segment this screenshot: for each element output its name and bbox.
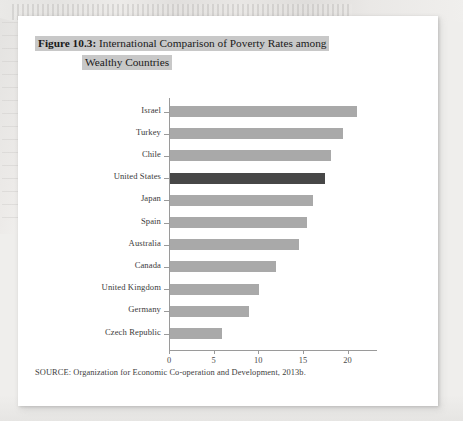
figure-number-label: Figure 10.3: bbox=[38, 37, 96, 49]
bar bbox=[170, 306, 249, 317]
y-axis-tick bbox=[164, 200, 169, 201]
x-axis-line bbox=[169, 350, 377, 351]
bar bbox=[170, 195, 313, 206]
bar-category-label: Chile bbox=[142, 149, 161, 159]
x-axis-tick bbox=[303, 350, 304, 354]
bar-category-label: Turkey bbox=[136, 127, 161, 137]
figure-source: SOURCE: Organization for Economic Co-ope… bbox=[35, 368, 306, 377]
y-axis-tick bbox=[164, 311, 169, 312]
bar bbox=[170, 239, 299, 250]
chart-plot-area: IsraelTurkeyChileUnited StatesJapanSpain… bbox=[169, 98, 379, 348]
y-axis-tick bbox=[164, 267, 169, 268]
bar-category-label: United States bbox=[114, 171, 161, 181]
bar-category-label: Spain bbox=[141, 216, 161, 226]
x-axis-tick bbox=[348, 350, 349, 354]
y-axis-tick bbox=[164, 156, 169, 157]
bar-category-label: United Kingdom bbox=[102, 282, 161, 292]
bar bbox=[170, 328, 222, 339]
y-axis-tick bbox=[164, 178, 169, 179]
y-axis-tick bbox=[164, 245, 169, 246]
bar bbox=[170, 128, 343, 139]
y-axis-tick bbox=[164, 334, 169, 335]
bar-category-label: Canada bbox=[135, 260, 161, 270]
bar bbox=[170, 150, 331, 161]
bar-category-label: Israel bbox=[141, 105, 161, 115]
y-axis-tick bbox=[164, 112, 169, 113]
x-axis-tick-label: 0 bbox=[167, 356, 171, 365]
x-axis-tick-label: 10 bbox=[254, 356, 262, 365]
bar-category-label: Australia bbox=[129, 238, 161, 248]
figure-title-text-2: Wealthy Countries bbox=[82, 55, 172, 70]
figure-title: Figure 10.3: International Comparison of… bbox=[35, 33, 415, 71]
figure-title-line-1: Figure 10.3: International Comparison of… bbox=[35, 33, 415, 52]
y-axis-tick bbox=[164, 134, 169, 135]
bar bbox=[170, 217, 307, 228]
bar-category-label: Czech Republic bbox=[105, 327, 161, 337]
bar-category-label: Germany bbox=[128, 304, 161, 314]
y-axis-tick bbox=[164, 223, 169, 224]
x-axis-tick-label: 15 bbox=[299, 356, 307, 365]
x-axis-tick bbox=[214, 350, 215, 354]
figure-title-line-2: Wealthy Countries bbox=[82, 52, 415, 71]
y-axis-tick bbox=[164, 289, 169, 290]
x-axis-tick-label: 20 bbox=[343, 356, 351, 365]
bar bbox=[170, 284, 259, 295]
book-page: Figure 10.3: International Comparison of… bbox=[18, 16, 438, 406]
figure-title-text-1: International Comparison of Poverty Rate… bbox=[96, 37, 326, 49]
bar bbox=[170, 106, 357, 117]
x-axis-tick bbox=[169, 350, 170, 354]
bar-category-label: Japan bbox=[141, 193, 161, 203]
x-axis-tick-label: 5 bbox=[212, 356, 216, 365]
bar-chart: IsraelTurkeyChileUnited StatesJapanSpain… bbox=[18, 88, 438, 358]
x-axis-tick bbox=[258, 350, 259, 354]
bar bbox=[170, 173, 325, 184]
bar bbox=[170, 261, 276, 272]
